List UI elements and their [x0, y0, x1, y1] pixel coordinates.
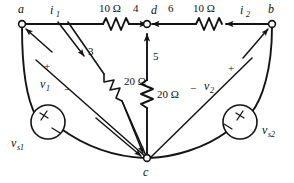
branch-d-c	[141, 34, 153, 158]
branch-20ohm-diagonal	[68, 22, 147, 158]
current-label-3: 3	[88, 45, 94, 57]
v1-plus-sign: +	[44, 60, 50, 72]
voltage-source-left-symbol	[31, 105, 65, 139]
resistor-10ohm-left	[103, 18, 129, 30]
resistor-20ohm-vertical-label: 20 Ω	[157, 88, 179, 100]
node-c-label: c	[143, 165, 149, 179]
current-label-6: 6	[168, 2, 174, 14]
vs1-subscript: s1	[17, 143, 24, 152]
v1-minus-sign: −	[64, 83, 70, 95]
current-i1-symbol: i	[50, 3, 53, 17]
vs2-subscript: s2	[268, 130, 275, 139]
current-i2-symbol: i	[240, 3, 243, 17]
resistor-10ohm-right	[196, 18, 222, 30]
node-b-terminal[interactable]	[269, 21, 276, 28]
node-a-terminal[interactable]	[19, 21, 26, 28]
node-d-terminal[interactable]	[144, 21, 151, 28]
resistor-10ohm-left-label: 10 Ω	[99, 2, 121, 14]
current-i2-subscript: 2	[246, 10, 250, 19]
v1-subscript: 1	[46, 84, 50, 93]
resistor-10ohm-right-label: 10 Ω	[193, 2, 215, 14]
source-right-label: v s2	[262, 123, 275, 139]
source-left-label: v s1	[11, 136, 24, 152]
v2-minus-sign: −	[190, 82, 196, 94]
current-label-i1: i 1	[50, 3, 60, 19]
node-a-label: a	[18, 2, 24, 16]
current-label-4: 4	[133, 2, 139, 14]
branch-source-left	[22, 27, 145, 158]
node-d-label: d	[151, 3, 158, 17]
v2-plus-sign: +	[228, 62, 234, 74]
node-b-label: b	[268, 2, 274, 16]
resistor-20ohm-diagonal-label: 20 Ω	[124, 75, 146, 87]
node-c-terminal[interactable]	[144, 155, 151, 162]
voltage-label-v2: + − v 2	[190, 62, 234, 95]
current-i1-subscript: 1	[56, 10, 60, 19]
current-label-5: 5	[153, 50, 159, 62]
v2-subscript: 2	[210, 86, 214, 95]
schematic-canvas: a b c d i 1 i 2 10 Ω 4 6 10 Ω 3 5 20 Ω 2…	[0, 0, 294, 183]
current-label-i2: i 2	[240, 3, 250, 19]
circuit-diagram: a b c d i 1 i 2 10 Ω 4 6 10 Ω 3 5 20 Ω 2…	[0, 0, 294, 183]
voltage-source-right-symbol	[223, 105, 257, 139]
